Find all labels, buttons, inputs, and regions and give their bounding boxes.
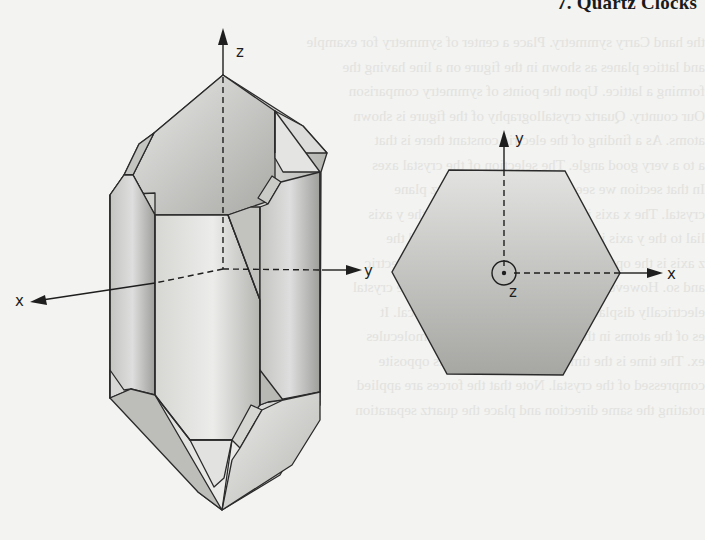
x-axis-label: x bbox=[15, 292, 24, 310]
x-arrow-icon bbox=[647, 268, 663, 278]
y-axis-label: y bbox=[515, 130, 524, 148]
x-axis-label: x bbox=[667, 265, 676, 283]
z-axis-label: z bbox=[509, 283, 517, 301]
book-page: the hand Carry symmetry. Place a center … bbox=[0, 0, 705, 540]
z-axis-label: z bbox=[236, 43, 244, 61]
z-arrow-icon bbox=[218, 28, 228, 45]
y-arrow-icon bbox=[346, 265, 362, 275]
crystal-3d bbox=[110, 75, 327, 510]
face-prism-right bbox=[260, 172, 320, 405]
x-arrow-icon bbox=[30, 295, 47, 305]
y-arrow-icon bbox=[499, 130, 509, 147]
y-axis-label: y bbox=[364, 262, 373, 280]
z-dot-icon bbox=[502, 271, 506, 275]
quartz-crystal-figure: z y x y x z bbox=[0, 0, 705, 540]
